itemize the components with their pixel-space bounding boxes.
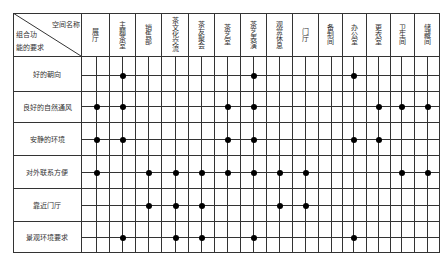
- relationship-dot: [120, 235, 126, 241]
- column-connector-line: [201, 56, 202, 253]
- column-connector-line: [378, 56, 379, 253]
- relationship-dot: [173, 170, 179, 176]
- relationship-dot: [225, 137, 231, 143]
- relationship-dot: [251, 73, 257, 79]
- row-label: 良好的自然通风: [13, 91, 81, 122]
- column-connector-line: [122, 56, 123, 253]
- relationship-dot: [199, 170, 205, 176]
- column-header: 主题茶室: [109, 13, 135, 56]
- relationship-dot: [303, 170, 309, 176]
- relationship-dot: [303, 203, 309, 209]
- relationship-dot: [225, 170, 231, 176]
- row-label: 景观环境要求: [13, 221, 81, 253]
- row-connector-line: [81, 237, 440, 238]
- row-connector-line: [81, 172, 440, 173]
- relationship-dot: [251, 137, 257, 143]
- column-connector-line: [227, 56, 228, 253]
- relationship-dot: [425, 170, 431, 176]
- relationship-dot: [199, 203, 205, 209]
- relationship-dot: [351, 235, 357, 241]
- row-label: 安静的环境: [13, 122, 81, 155]
- column-connector-line: [305, 56, 306, 253]
- row-connector-line: [81, 139, 440, 140]
- row-label: 对外联系方便: [13, 155, 81, 188]
- column-connector-line: [331, 56, 332, 253]
- relationship-dot: [120, 73, 126, 79]
- relationship-dot: [351, 137, 357, 143]
- column-header: 办公室: [342, 13, 366, 56]
- relationship-dot: [351, 73, 357, 79]
- relationship-dot: [225, 104, 231, 110]
- column-connector-line: [253, 56, 254, 253]
- relationship-dot: [277, 170, 283, 176]
- column-header: 储藏间: [414, 13, 440, 56]
- corner-space-name-label: 空间名称: [52, 19, 80, 29]
- corner-function-label-1: 组合功: [16, 29, 37, 39]
- row-label: 好的朝向: [13, 56, 81, 91]
- column-header: 卫生间: [390, 13, 414, 56]
- column-header: 展厅: [81, 13, 109, 56]
- column-connector-line: [148, 56, 149, 253]
- relationship-dot: [399, 170, 405, 176]
- column-header: 备制间: [318, 13, 342, 56]
- column-header: 茶友聚会: [188, 13, 214, 56]
- relationship-dot: [173, 203, 179, 209]
- column-header: 更衣室: [366, 13, 390, 56]
- column-connector-line: [279, 56, 280, 253]
- relationship-dot: [146, 203, 152, 209]
- column-connector-line: [401, 56, 402, 253]
- column-header: 茶艺室: [214, 13, 240, 56]
- relationship-dot: [399, 104, 405, 110]
- column-header: 茶艺表演: [240, 13, 266, 56]
- relationship-dot: [94, 104, 100, 110]
- column-header: 销售部: [135, 13, 161, 56]
- column-connector-line: [353, 56, 354, 253]
- relationship-dot: [251, 170, 257, 176]
- relationship-dot: [277, 203, 283, 209]
- column-header: 门厅: [292, 13, 318, 56]
- relationship-dot: [251, 235, 257, 241]
- relationship-dot: [251, 104, 257, 110]
- corner-function-label-2: 能的要求: [16, 42, 44, 52]
- relationship-dot: [120, 104, 126, 110]
- relationship-dot: [94, 170, 100, 176]
- row-connector-line: [81, 205, 440, 206]
- column-header: 茶文化交流: [161, 13, 188, 56]
- row-label: 靠近门厅: [13, 188, 81, 221]
- row-connector-line: [81, 106, 440, 107]
- relationship-dot: [199, 235, 205, 241]
- relationship-dot: [376, 104, 382, 110]
- column-connector-line: [427, 56, 428, 253]
- column-connector-line: [96, 56, 97, 253]
- column-header: 观赏休息: [266, 13, 292, 56]
- row-connector-line: [81, 75, 440, 76]
- relationship-dot: [376, 137, 382, 143]
- relationship-dot: [425, 104, 431, 110]
- relationship-dot: [120, 137, 126, 143]
- relationship-dot: [146, 170, 152, 176]
- relationship-dot: [173, 235, 179, 241]
- column-connector-line: [175, 56, 176, 253]
- relationship-dot: [94, 137, 100, 143]
